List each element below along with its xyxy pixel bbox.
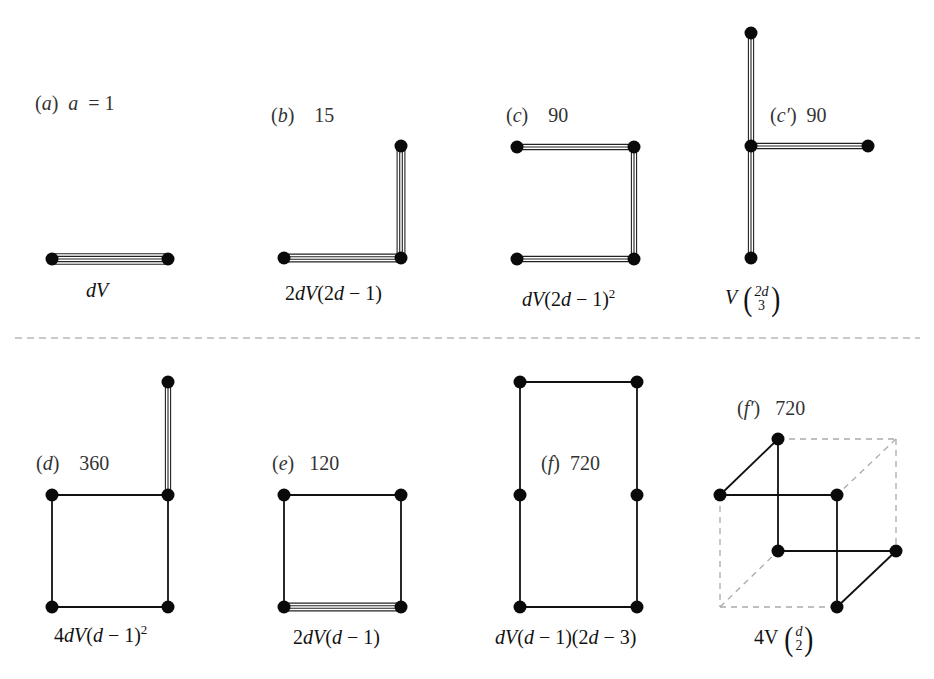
panel-c-vertex: [628, 253, 641, 266]
panel-c-prime-formula: V ( 2d3 ): [725, 282, 781, 316]
panel-c-prime-bond: [751, 143, 868, 148]
panel-f-vertex: [631, 489, 644, 502]
panel-a-vertex: [162, 253, 175, 266]
panel-c-label: (c) 90: [506, 104, 568, 127]
panel-c-prime-label: (c′) 90: [770, 104, 827, 127]
panel-c-vertex: [511, 253, 524, 266]
panel-e-vertex: [278, 489, 291, 502]
panel-c-prime-bond: [748, 146, 753, 258]
panel-c-bond: [517, 256, 634, 261]
panel-f-prime-vertex: [890, 545, 903, 558]
panel-b-bond: [284, 254, 401, 262]
panel-f-prime-bond: [720, 439, 778, 495]
cube-outline-dashed: [837, 439, 896, 495]
panel-e-vertex: [278, 601, 291, 614]
panel-d-vertex: [162, 489, 175, 502]
panel-f-count: 720: [570, 452, 600, 474]
panel-a-vertex: [46, 253, 59, 266]
panel-d-label: (d) 360: [36, 452, 109, 475]
panel-c-prime-vertex: [745, 27, 758, 40]
panel-d-vertex: [162, 601, 175, 614]
panel-d-formula: 4dV(d − 1)2: [54, 622, 147, 647]
binomial-d-2: ( d2 ): [783, 622, 815, 656]
panel-f-prime-vertex: [831, 489, 844, 502]
panel-e-vertex: [395, 489, 408, 502]
panel-a-bond: [52, 254, 168, 264]
binomial-2d-3: ( 2d3 ): [742, 282, 781, 316]
panel-c-vertex: [628, 141, 641, 154]
panel-b-label: (b) 15: [271, 104, 334, 127]
panel-f-formula: dV(d − 1)(2d − 3): [495, 626, 636, 649]
panel-f-vertex: [514, 489, 527, 502]
panel-f-prime-vertex: [714, 489, 727, 502]
panel-f-prime-formula: 4V ( d2 ): [754, 622, 815, 656]
panel-c-bond: [631, 147, 636, 259]
panel-e-label: (e) 120: [272, 452, 339, 475]
cube-outline-dashed: [720, 551, 778, 607]
panel-e-vertex: [395, 601, 408, 614]
panel-c-bond: [517, 144, 634, 149]
panel-e-bond: [284, 603, 401, 611]
panel-c-prime-count: 90: [807, 104, 827, 126]
panel-d-count: 360: [79, 452, 109, 474]
panel-f-vertex: [631, 376, 644, 389]
panel-f-label: (f) 720: [541, 452, 600, 475]
panel-c-count: 90: [548, 104, 568, 126]
panel-f-prime-vertex: [772, 433, 785, 446]
panel-f-vertex: [631, 601, 644, 614]
panel-b-vertex: [395, 252, 408, 265]
panel-e-count: 120: [309, 452, 339, 474]
panel-b-bond: [397, 146, 405, 258]
panel-a-count: a = 1: [68, 92, 114, 114]
diagram-canvas: [0, 0, 934, 679]
panel-b-vertex: [395, 140, 408, 153]
panel-c-formula: dV(2d − 1)2: [522, 286, 615, 311]
panel-d-vertex: [162, 376, 175, 389]
panel-a-label: (a) a = 1: [35, 92, 115, 115]
panel-c-prime-vertex: [745, 252, 758, 265]
panel-c-prime-vertex: [862, 140, 875, 153]
panel-b-vertex: [278, 252, 291, 265]
panel-c-prime-vertex: [745, 140, 758, 153]
panel-f-vertex: [514, 601, 527, 614]
panel-f-prime-bond: [837, 551, 896, 607]
panel-c-vertex: [511, 141, 524, 154]
panel-c-prime-bond: [748, 33, 753, 146]
panel-f-vertex: [514, 376, 527, 389]
panel-f-prime-vertex: [831, 601, 844, 614]
panel-d-vertex: [46, 601, 59, 614]
panel-e-formula: 2dV(d − 1): [293, 626, 380, 649]
panel-b-formula: 2dV(2d − 1): [285, 282, 382, 305]
panel-d-vertex: [46, 489, 59, 502]
panel-d-bond: [165, 382, 170, 495]
panel-a-formula: dV: [86, 279, 108, 302]
panel-f-prime-count: 720: [775, 397, 805, 419]
panel-f-prime-label: (f′) 720: [737, 397, 805, 420]
panel-f-prime-vertex: [772, 545, 785, 558]
panel-a-tag: (a): [35, 92, 58, 114]
panel-b-count: 15: [314, 104, 334, 126]
